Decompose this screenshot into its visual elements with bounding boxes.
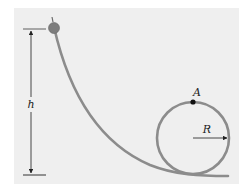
diagram-panel [14, 8, 239, 184]
point-a-label: A [192, 86, 201, 99]
ball-body [49, 23, 60, 34]
height-label: h [27, 98, 34, 111]
loop-the-loop-diagram: h R A [0, 0, 248, 192]
point-a-marker [190, 99, 195, 104]
radius-label: R [202, 123, 211, 136]
